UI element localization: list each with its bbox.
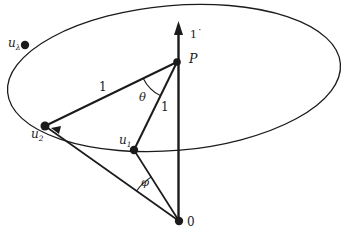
- vertical-axis-arrowhead-icon: [174, 21, 183, 35]
- point-origin-dot: [175, 217, 183, 225]
- angle-theta-arc-label: θ: [139, 90, 146, 104]
- segment-u2-P-length-label: 1: [99, 80, 107, 94]
- point-u-lambda-label: uλ: [8, 36, 21, 52]
- point-origin-label: 0: [187, 215, 195, 229]
- point-u2-dot: [41, 122, 50, 131]
- figure-canvas: 111˙θφuλu2u1P0: [0, 0, 346, 237]
- point-P-dot: [173, 58, 181, 66]
- circle-in-perspective: [1, 0, 346, 165]
- angle-phi-arc-label: φ: [141, 175, 149, 189]
- point-u-lambda-dot: [21, 41, 29, 49]
- segment-P-u1: [134, 62, 177, 150]
- segment-P-u1-length-label: 1: [161, 100, 169, 114]
- point-u1-label: u1: [119, 133, 131, 149]
- segment-u2-origin: [45, 126, 179, 221]
- point-P-label: P: [188, 51, 198, 66]
- geometry-diagram: 111˙θφuλu2u1P0: [0, 0, 346, 237]
- point-u2-label: u2: [31, 127, 44, 143]
- vertical-axis-label: 1˙: [190, 28, 203, 41]
